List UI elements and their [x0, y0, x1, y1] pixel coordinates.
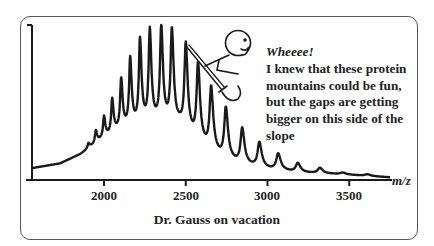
figure-eye — [243, 38, 247, 42]
speech-exclaim: Wheeee! — [266, 44, 426, 61]
x-tick-label-2500: 2500 — [161, 188, 211, 204]
x-axis-label: m/z — [392, 173, 411, 189]
caption: Dr. Gauss on vacation — [0, 212, 434, 228]
x-tick-label-3000: 3000 — [242, 188, 292, 204]
x-tick-label-2000: 2000 — [79, 188, 129, 204]
x-tick-label-3500: 3500 — [324, 188, 374, 204]
figure-body — [205, 55, 229, 66]
speech-line: slope — [266, 128, 426, 145]
speech-text: Wheeee! I knew that these protein mounta… — [266, 44, 426, 145]
speech-line: bigger on this side of the — [266, 111, 426, 128]
figure-arm — [217, 60, 238, 74]
speech-line: but the gaps are getting — [266, 94, 426, 111]
figure-sled-edge — [189, 45, 225, 88]
speech-line: mountains could be fun, — [266, 78, 426, 95]
speech-line: I knew that these protein — [266, 61, 426, 78]
